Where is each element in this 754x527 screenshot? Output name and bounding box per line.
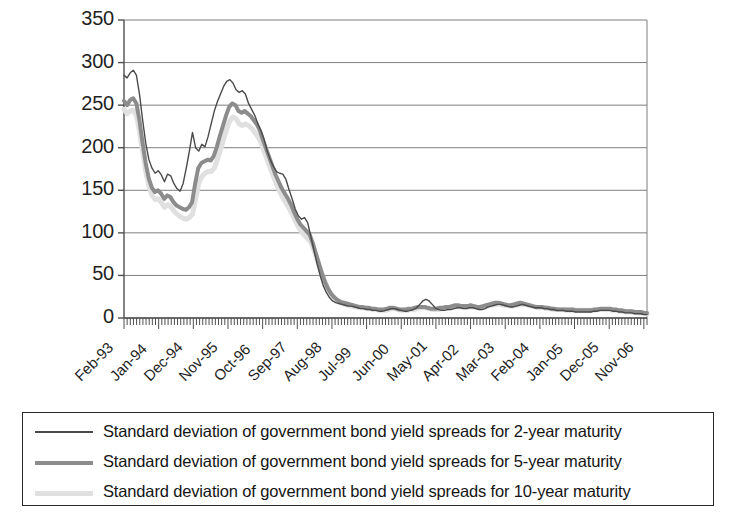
- legend-color-swatch-series_2y: [35, 425, 93, 437]
- y-axis-tick-label: 250: [54, 92, 114, 115]
- series-line-series_2y: [124, 70, 647, 314]
- series-line-series_5y: [124, 98, 647, 313]
- y-axis-tick-label: 0: [54, 305, 114, 328]
- legend-item-label: Standard deviation of government bond yi…: [103, 452, 622, 471]
- legend-item-label: Standard deviation of government bond yi…: [103, 482, 631, 501]
- series-line-series_10y: [124, 109, 647, 313]
- chart-legend: Standard deviation of government bond yi…: [22, 412, 714, 506]
- chart-plot-area: 050100150200250300350 Feb-93Jan-94Dec-94…: [0, 0, 754, 400]
- legend-color-swatch-series_5y: [35, 455, 93, 467]
- y-axis: [118, 20, 124, 318]
- legend-item-label: Standard deviation of government bond yi…: [103, 422, 622, 441]
- y-axis-tick-label: 50: [54, 262, 114, 285]
- legend-item: Standard deviation of government bond yi…: [23, 416, 713, 446]
- legend-color-swatch-series_10y: [35, 485, 93, 497]
- figure: 050100150200250300350 Feb-93Jan-94Dec-94…: [0, 0, 754, 527]
- legend-item: Standard deviation of government bond yi…: [23, 446, 713, 476]
- x-axis-ticks: [124, 318, 647, 329]
- legend-item: Standard deviation of government bond yi…: [23, 476, 713, 506]
- y-axis-tick-label: 300: [54, 50, 114, 73]
- y-axis-tick-label: 200: [54, 135, 114, 158]
- y-axis-tick-label: 100: [54, 220, 114, 243]
- y-axis-tick-label: 150: [54, 177, 114, 200]
- y-axis-tick-label: 350: [54, 7, 114, 30]
- gridlines: [124, 20, 647, 318]
